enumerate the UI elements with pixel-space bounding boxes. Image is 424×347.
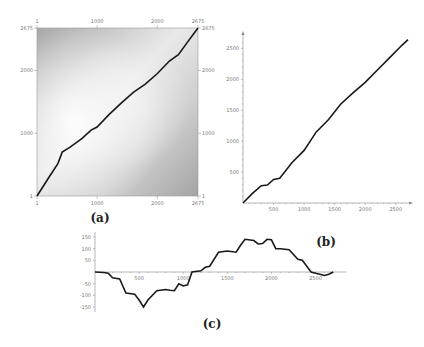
tick-label: 500 (229, 169, 239, 175)
tick-label: 50 (85, 257, 91, 263)
caption-b: (b) (316, 235, 336, 249)
tick-label: 1000 (226, 138, 239, 144)
tick-label: 2500 (226, 45, 239, 51)
tick-label: 2000 (151, 18, 164, 24)
tick-label: 1500 (221, 275, 234, 281)
tick-label: 500 (269, 206, 279, 212)
panel-b: 50010001500200025005001000150020002500 (… (226, 31, 413, 249)
tick-label: 2000 (202, 67, 215, 73)
tick-label: 500 (134, 275, 144, 281)
tick-label: 2000 (265, 275, 278, 281)
tick-label: -150 (80, 304, 91, 310)
tick-label: 2000 (151, 200, 164, 206)
tick-label: 2000 (226, 76, 239, 82)
tick-label: 1 (202, 193, 205, 199)
caption-a: (a) (90, 211, 109, 225)
y-axis-arrow-icon (242, 31, 245, 35)
panel-a: 1100020002675110002000267526752000100012… (20, 18, 214, 225)
x-axis-arrow-icon (409, 202, 413, 205)
tick-label: 2675 (192, 200, 205, 206)
tick-label: 1500 (328, 206, 341, 212)
tick-label: 2675 (20, 25, 33, 31)
tick-label: 100 (81, 246, 91, 252)
tick-label: 1 (35, 200, 38, 206)
axis-ticks-b: 50010001500200025005001000150020002500 (226, 42, 402, 212)
tick-label: 2675 (202, 25, 215, 31)
panel-c: 500100015002000250015010050-50-100-150 (… (80, 232, 346, 331)
figure: 1100020002675110002000267526752000100012… (0, 0, 424, 347)
line-series-c (95, 239, 333, 307)
tick-label: -50 (83, 281, 91, 287)
line-series-b (243, 40, 408, 203)
tick-label: 2500 (389, 206, 402, 212)
tick-label: 1 (35, 18, 38, 24)
tick-label: 2000 (20, 67, 33, 73)
tick-label: 1 (30, 193, 33, 199)
tick-label: 1000 (91, 18, 104, 24)
caption-c: (c) (203, 317, 222, 331)
tick-label: 1000 (298, 206, 311, 212)
tick-label: 1000 (20, 130, 33, 136)
tick-label: 2000 (359, 206, 372, 212)
tick-label: 150 (81, 234, 91, 240)
tick-label: -100 (80, 292, 91, 298)
tick-label: 2675 (192, 18, 205, 24)
tick-label: 1000 (177, 275, 190, 281)
tick-label: 1000 (91, 200, 104, 206)
tick-label: 1500 (226, 107, 239, 113)
tick-label: 2500 (309, 275, 322, 281)
tick-label: 1000 (202, 130, 215, 136)
